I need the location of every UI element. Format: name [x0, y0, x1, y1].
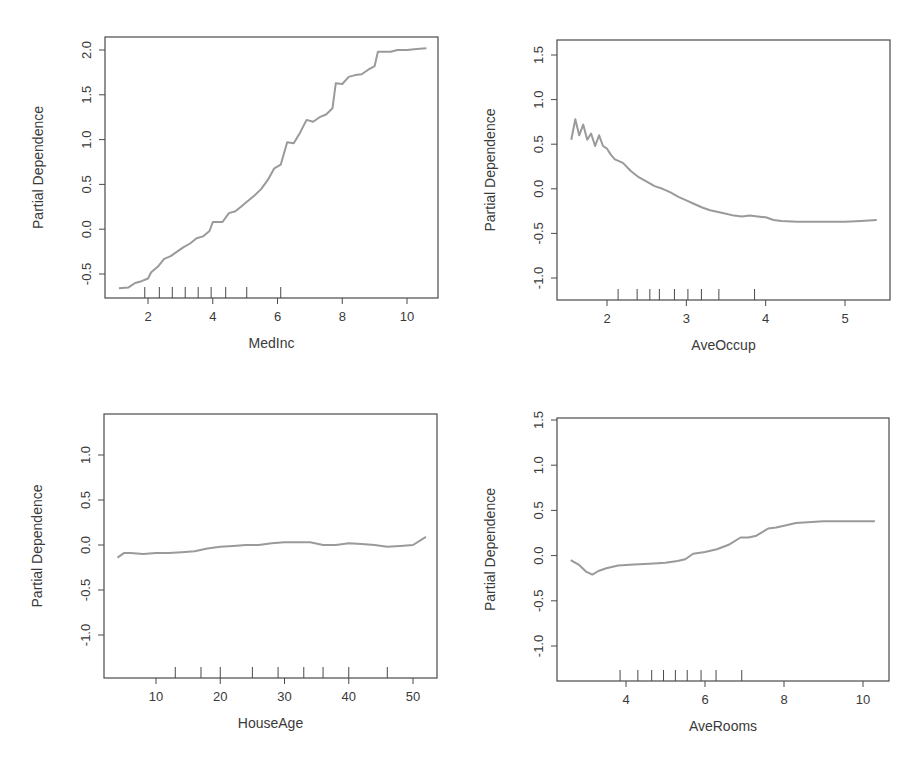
partial-dependence-line	[118, 537, 426, 558]
x-tick-label: 50	[406, 689, 420, 704]
y-tick-label: 2.0	[79, 41, 94, 59]
y-tick-label: 0.0	[531, 180, 546, 198]
x-axis-label: HouseAge	[238, 715, 304, 731]
y-tick-label: -0.5	[78, 579, 93, 601]
y-axis-label: Partial Dependence	[482, 488, 498, 611]
x-tick-label: 40	[342, 689, 356, 704]
y-tick-label: 1.0	[78, 446, 93, 464]
x-tick-label: 2	[603, 311, 610, 326]
y-tick-label: 0.0	[78, 536, 93, 554]
x-axis-label: MedInc	[249, 335, 295, 351]
y-tick-label: 0.5	[78, 491, 93, 509]
x-tick-label: 4	[762, 311, 769, 326]
partial-dependence-line	[571, 521, 875, 574]
x-tick-label: 6	[274, 309, 281, 324]
x-tick-label: 10	[400, 309, 414, 324]
x-axis-label: AveOccup	[691, 337, 756, 353]
plot-frame	[105, 37, 438, 298]
y-tick-label: 1.5	[531, 411, 546, 429]
panel-aveoccup: -1.0-0.50.00.51.01.52345AveOccupPartial …	[482, 40, 890, 353]
y-tick-label: -0.5	[531, 590, 546, 612]
y-tick-label: -1.0	[531, 635, 546, 657]
x-tick-label: 10	[856, 692, 870, 707]
y-axis-label: Partial Dependence	[482, 108, 498, 231]
partial-dependence-line	[571, 119, 876, 222]
y-axis-label: Partial Dependence	[30, 106, 46, 229]
x-tick-label: 6	[701, 692, 708, 707]
plot-frame	[557, 40, 890, 300]
x-tick-label: 4	[209, 309, 216, 324]
x-tick-label: 8	[780, 692, 787, 707]
y-tick-label: 0.0	[79, 220, 94, 238]
panel-averooms: -1.0-0.50.00.51.01.546810AveRoomsPartial…	[482, 411, 889, 734]
y-tick-label: 0.0	[531, 547, 546, 565]
y-tick-label: -1.0	[78, 624, 93, 646]
y-tick-label: 1.0	[531, 91, 546, 109]
x-tick-label: 2	[144, 309, 151, 324]
y-axis-label: Partial Dependence	[29, 484, 45, 607]
panel-houseage: -1.0-0.50.00.51.01020304050HouseAgeParti…	[29, 414, 437, 731]
y-tick-label: 0.5	[531, 501, 546, 519]
plot-frame	[557, 418, 889, 681]
partial-dependence-figure: -0.50.00.51.01.52.0246810MedIncPartial D…	[0, 0, 916, 759]
y-tick-label: -0.5	[79, 263, 94, 285]
x-tick-label: 20	[213, 689, 227, 704]
y-tick-label: 1.0	[79, 131, 94, 149]
y-tick-label: 0.5	[79, 175, 94, 193]
y-tick-label: 0.5	[531, 135, 546, 153]
y-tick-label: -1.0	[531, 267, 546, 289]
x-axis-label: AveRooms	[689, 718, 757, 734]
panel-medinc: -0.50.00.51.01.52.0246810MedIncPartial D…	[30, 37, 438, 351]
x-tick-label: 3	[683, 311, 690, 326]
partial-dependence-line	[119, 48, 427, 288]
y-tick-label: 1.5	[79, 86, 94, 104]
x-tick-label: 10	[149, 689, 163, 704]
y-tick-label: 1.0	[531, 456, 546, 474]
x-tick-label: 4	[622, 692, 629, 707]
x-tick-label: 30	[277, 689, 291, 704]
y-tick-label: -0.5	[531, 222, 546, 244]
x-tick-label: 5	[841, 311, 848, 326]
y-tick-label: 1.5	[531, 46, 546, 64]
x-tick-label: 8	[339, 309, 346, 324]
